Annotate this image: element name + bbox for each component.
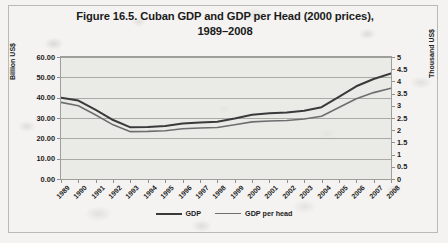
x-axis-tick-mark	[304, 180, 305, 183]
x-axis-tick-mark	[96, 180, 97, 183]
x-axis-tick-mark	[374, 180, 375, 183]
y-axis-right-tick-label: 2.5	[397, 114, 413, 123]
series-line-gdp	[61, 73, 391, 127]
series-lines	[61, 57, 391, 179]
x-axis-tick-mark	[78, 180, 79, 183]
x-axis-tick-mark	[339, 180, 340, 183]
y-axis-right-tick-mark	[392, 94, 395, 95]
x-axis-tick-mark	[322, 180, 323, 183]
y-axis-left-tick-label: 20.00	[17, 134, 55, 143]
gridline	[61, 179, 391, 180]
legend-label: GDP per head	[245, 209, 292, 218]
y-axis-right-tick-mark	[392, 142, 395, 143]
x-axis-tick-mark	[200, 180, 201, 183]
x-axis-tick-mark	[165, 180, 166, 183]
y-axis-right-tick-mark	[392, 167, 395, 168]
y-axis-right-tick-label: 4	[397, 77, 413, 86]
legend-swatch-icon	[156, 213, 182, 215]
y-axis-right-tick-mark	[392, 155, 395, 156]
chart-title-line-2: 1989–2008	[50, 24, 400, 39]
chart-legend: GDPGDP per head	[0, 209, 448, 218]
y-axis-right-tick-mark	[392, 57, 395, 58]
y-axis-right-tick-label: 3	[397, 101, 413, 110]
x-axis-tick-mark	[252, 180, 253, 183]
x-axis-tick-mark	[287, 180, 288, 183]
y-axis-right-tick-label: 1	[397, 150, 413, 159]
plot-area	[60, 56, 392, 180]
legend-swatch-icon	[215, 213, 241, 215]
y-axis-right-tick-mark	[392, 81, 395, 82]
x-axis-tick-mark	[356, 180, 357, 183]
x-axis-tick-mark	[183, 180, 184, 183]
y-axis-left-label: Billion US$	[9, 43, 16, 80]
y-axis-right-tick-label: 5	[397, 53, 413, 62]
x-axis-tick-mark	[269, 180, 270, 183]
y-axis-right-tick-mark	[392, 106, 395, 107]
y-axis-right-tick-label: 0	[397, 175, 413, 184]
y-axis-right-tick-mark	[392, 179, 395, 180]
x-axis-tick-mark	[130, 180, 131, 183]
y-axis-right-tick-label: 4.5	[397, 65, 413, 74]
legend-label: GDP	[186, 209, 202, 218]
y-axis-left-tick-label: 60.00	[17, 53, 55, 62]
y-axis-right-tick-mark	[392, 130, 395, 131]
legend-item[interactable]: GDP	[156, 209, 202, 218]
legend-item[interactable]: GDP per head	[215, 209, 292, 218]
x-axis-tick-mark	[391, 180, 392, 183]
y-axis-right-tick-label: 1.5	[397, 138, 413, 147]
x-axis-tick-mark	[217, 180, 218, 183]
chart-title: Figure 16.5. Cuban GDP and GDP per Head …	[50, 9, 400, 38]
x-axis-tick-mark	[113, 180, 114, 183]
y-axis-left-tick-label: 10.00	[17, 154, 55, 163]
y-axis-left-tick-label: 40.00	[17, 93, 55, 102]
y-axis-right-label: Thousand US$	[428, 29, 435, 78]
y-axis-right-tick-label: 2	[397, 126, 413, 135]
y-axis-left-tick-label: 30.00	[17, 114, 55, 123]
y-axis-right-tick-label: 0.5	[397, 162, 413, 171]
x-axis-tick-mark	[148, 180, 149, 183]
chart-title-line-1: Figure 16.5. Cuban GDP and GDP per Head …	[50, 9, 400, 24]
y-axis-left-tick-label: 0.00	[17, 175, 55, 184]
x-axis-tick-mark	[235, 180, 236, 183]
y-axis-right-tick-mark	[392, 69, 395, 70]
x-axis-tick-mark	[61, 180, 62, 183]
y-axis-left-tick-label: 50.00	[17, 73, 55, 82]
y-axis-right-tick-mark	[392, 118, 395, 119]
y-axis-right-tick-label: 3.5	[397, 89, 413, 98]
